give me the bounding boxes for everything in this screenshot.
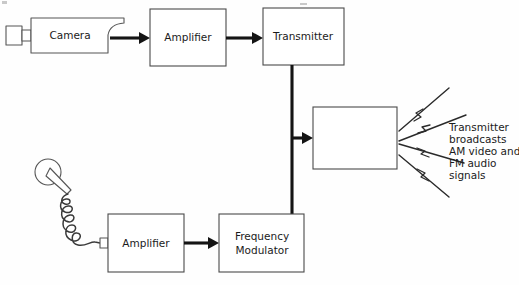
microphone-device	[35, 159, 71, 194]
diagram-canvas: Camera Amplifier Transmitter	[0, 0, 519, 285]
caption-line-3: AM video and	[449, 145, 519, 157]
microphone-cable	[61, 194, 108, 248]
flow-trunk-to-antenna	[292, 132, 313, 144]
cable-plug-icon	[100, 238, 108, 248]
arrowhead-icon	[302, 132, 313, 144]
frequency-modulator-box	[219, 214, 304, 272]
frequency-modulator-label-line2: Modulator	[235, 244, 289, 256]
camera-label: Camera	[49, 29, 90, 41]
scan-artifact	[2, 1, 7, 4]
scan-artifact	[300, 3, 307, 5]
broadcast-caption: Transmitter broadcasts AM video and FM a…	[448, 121, 519, 181]
broadcast-wave-line	[399, 155, 449, 197]
caption-line-5: signals	[449, 169, 486, 181]
caption-line-2: broadcasts	[449, 133, 507, 145]
antenna-output-box	[313, 107, 397, 169]
frequency-modulator-label-line1: Frequency	[235, 230, 289, 242]
arrowhead-icon	[208, 237, 219, 249]
arrowhead-icon	[252, 32, 263, 44]
flow-camera-to-amplifier	[110, 32, 150, 44]
tv-transmission-diagram: Camera Amplifier Transmitter	[0, 0, 519, 285]
caption-line-4: FM audio	[449, 157, 497, 169]
flow-amplifier-to-modulator	[184, 237, 219, 249]
video-amplifier-label: Amplifier	[164, 31, 212, 43]
transmitter-label: Transmitter	[272, 30, 334, 42]
audio-amplifier-label: Amplifier	[122, 237, 170, 249]
camera-eyepiece-icon	[6, 26, 22, 45]
camera-neck-icon	[22, 30, 31, 41]
caption-line-1: Transmitter	[448, 121, 510, 133]
flow-amplifier-to-transmitter	[226, 32, 263, 44]
coiled-cord-icon	[61, 194, 100, 245]
arrowhead-icon	[139, 32, 150, 44]
